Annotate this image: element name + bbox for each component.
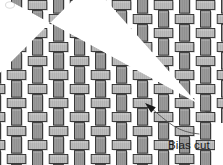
warp-thread	[158, 11, 169, 29]
warp-thread	[74, 95, 85, 113]
warp-thread	[137, 53, 148, 71]
weft-thread	[70, 113, 90, 123]
warp-thread	[95, 25, 106, 43]
warp-thread	[53, 0, 64, 14]
weft-thread	[70, 57, 90, 67]
warp-thread	[95, 0, 106, 14]
weft-thread	[154, 1, 174, 11]
weft-thread	[154, 29, 174, 39]
warp-thread	[0, 95, 2, 113]
weft-thread	[91, 43, 111, 53]
warp-thread	[53, 137, 64, 155]
warp-thread	[116, 95, 127, 113]
weft-thread	[49, 127, 69, 137]
weft-thread	[217, 43, 223, 53]
weft-thread	[196, 57, 216, 67]
weft-thread	[175, 43, 195, 53]
weft-thread	[91, 127, 111, 137]
warp-thread	[11, 25, 22, 43]
warp-thread	[221, 25, 223, 43]
weft-thread	[154, 57, 174, 67]
warp-thread	[221, 137, 223, 155]
weft-thread	[91, 155, 111, 165]
weft-thread	[7, 15, 27, 25]
weft-thread	[0, 113, 6, 123]
warp-thread	[221, 0, 223, 14]
weft-thread	[133, 127, 153, 137]
warp-thread	[221, 109, 223, 127]
warp-thread	[95, 53, 106, 71]
weft-thread	[49, 71, 69, 81]
warp-thread	[74, 11, 85, 29]
weft-thread	[70, 29, 90, 39]
weft-thread	[217, 127, 223, 137]
warp-thread	[200, 39, 211, 57]
weft-thread	[175, 99, 195, 109]
warp-thread	[200, 11, 211, 29]
warp-thread	[53, 109, 64, 127]
weft-thread	[133, 43, 153, 53]
weft-thread	[28, 29, 48, 39]
weft-thread	[7, 71, 27, 81]
weft-thread	[70, 141, 90, 151]
weft-thread	[7, 127, 27, 137]
warp-thread	[95, 0, 106, 14]
weft-thread	[28, 85, 48, 95]
warp-thread	[11, 25, 22, 43]
weft-thread	[0, 85, 6, 95]
weft-thread	[175, 15, 195, 25]
corner-artifact	[6, 2, 15, 8]
warp-thread	[137, 53, 148, 71]
warp-thread	[53, 53, 64, 71]
weft-thread	[7, 15, 27, 25]
warp-thread	[137, 137, 148, 155]
weft-thread	[154, 113, 174, 123]
weft-thread	[175, 155, 195, 165]
warp-thread	[221, 137, 223, 155]
warp-thread	[179, 25, 190, 43]
weft-thread	[28, 113, 48, 123]
warp-thread	[158, 95, 169, 113]
weft-thread	[70, 85, 90, 95]
warp-thread	[11, 137, 22, 155]
warp-thread	[179, 53, 190, 71]
warp-thread	[179, 0, 190, 14]
weft-thread	[49, 99, 69, 109]
warp-thread	[116, 123, 127, 141]
warp-thread	[0, 67, 2, 85]
weft-thread	[112, 141, 132, 151]
weft-thread	[196, 29, 216, 39]
warp-thread	[116, 39, 127, 57]
warp-thread	[53, 25, 64, 43]
weft-thread	[49, 43, 69, 53]
warp-thread	[53, 81, 64, 99]
warp-thread	[116, 11, 127, 29]
warp-thread	[32, 151, 43, 165]
warp-thread	[137, 109, 148, 127]
warp-thread	[11, 109, 22, 127]
warp-thread	[116, 67, 127, 85]
weft-thread	[28, 141, 48, 151]
warp-thread	[74, 67, 85, 85]
warp-thread	[32, 67, 43, 85]
weft-thread	[112, 113, 132, 123]
weft-thread	[217, 99, 223, 109]
weft-thread	[49, 15, 69, 25]
warp-thread	[32, 95, 43, 113]
weft-thread	[133, 71, 153, 81]
weft-thread	[112, 1, 132, 11]
weft-thread	[70, 1, 90, 11]
warp-thread	[116, 39, 127, 57]
weft-thread	[0, 29, 6, 39]
weft-thread	[196, 1, 216, 11]
bias-cut-figure: Bias cut	[0, 0, 223, 165]
warp-thread	[95, 137, 106, 155]
warp-thread	[137, 0, 148, 14]
weft-thread	[91, 15, 111, 25]
warp-thread	[137, 81, 148, 99]
warp-thread	[11, 53, 22, 71]
warp-thread	[137, 25, 148, 43]
warp-thread	[158, 151, 169, 165]
warp-thread	[74, 39, 85, 57]
warp-thread	[0, 123, 2, 141]
